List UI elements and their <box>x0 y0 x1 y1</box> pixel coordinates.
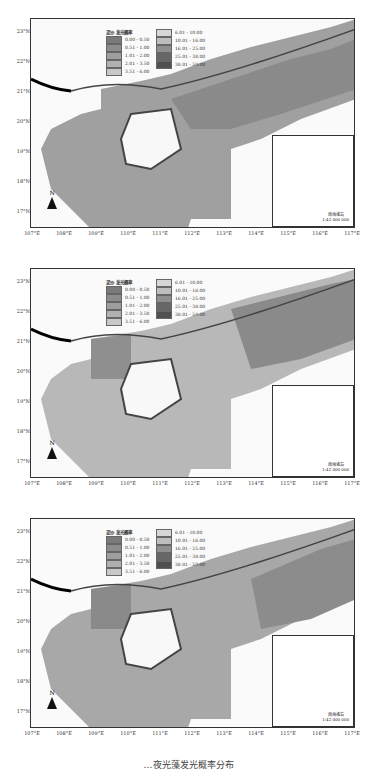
legend-item: 10.01 - 16.00 <box>156 287 205 294</box>
legend-swatch <box>106 68 122 76</box>
legend-swatch <box>156 45 172 53</box>
y-tick: 20°N <box>2 118 30 124</box>
legend-item: 1.01 - 2.00 <box>106 52 149 59</box>
x-tick: 110°E <box>116 480 140 486</box>
legend-swatch <box>106 544 122 552</box>
inset-scale: 1:42 000 000 <box>322 717 349 722</box>
x-tick: 111°E <box>148 480 172 486</box>
map-panel-b: 泥沙 发光概率 0.00 - 0.50 0.51 - 1.00 1.01 - 2… <box>0 268 377 508</box>
x-tick: 107°E <box>20 230 44 236</box>
legend-swatch <box>106 310 122 318</box>
inset-map: 南海诸岛 1:42 000 000 <box>272 635 354 727</box>
north-arrow-icon: N <box>45 689 59 709</box>
legend-item: 10.01 - 16.00 <box>156 37 205 44</box>
y-tick: 17°N <box>2 458 30 464</box>
legend-item: 3.51 - 6.00 <box>106 68 149 75</box>
x-tick: 113°E <box>212 480 236 486</box>
legend-swatch <box>156 29 172 37</box>
x-tick: 112°E <box>180 730 204 736</box>
y-tick: 19°N <box>2 398 30 404</box>
y-tick: 21°N <box>2 88 30 94</box>
y-tick: 22°N <box>2 58 30 64</box>
x-tick: 109°E <box>84 230 108 236</box>
x-tick: 108°E <box>52 730 76 736</box>
x-tick: 116°E <box>308 230 332 236</box>
y-tick: 17°N <box>2 208 30 214</box>
legend-item: 2.01 - 3.50 <box>106 60 149 67</box>
legend-swatch <box>156 561 172 569</box>
legend-item: 2.01 - 3.50 <box>106 560 149 567</box>
legend-item: 25.01 - 38.00 <box>156 553 205 560</box>
legend-item: 0.00 - 0.50 <box>106 536 149 543</box>
legend-swatch <box>106 318 122 326</box>
map-frame: 泥沙 发光概率 0.00 - 0.50 0.51 - 1.00 1.01 - 2… <box>30 18 355 228</box>
legend-swatch <box>106 302 122 310</box>
map-panel-a: 泥沙 发光概率 0.00 - 0.50 0.51 - 1.00 1.01 - 2… <box>0 18 377 258</box>
legend-item: 6.01 - 10.00 <box>156 529 202 536</box>
x-tick: 114°E <box>244 730 268 736</box>
legend-swatch <box>106 60 122 68</box>
x-tick: 116°E <box>308 730 332 736</box>
legend-title: 泥沙 发光概率 <box>106 279 132 285</box>
x-tick: 110°E <box>116 230 140 236</box>
legend-swatch <box>156 303 172 311</box>
map-frame: 泥沙 发光概率 0.00 - 0.50 0.51 - 1.00 1.01 - 2… <box>30 268 355 478</box>
legend-swatch <box>106 286 122 294</box>
inset-map: 南海诸岛 1:42 000 000 <box>272 135 354 227</box>
y-tick: 23°N <box>2 278 30 284</box>
x-tick: 116°E <box>308 480 332 486</box>
legend-title: 泥沙 发光概率 <box>106 529 132 535</box>
x-tick: 111°E <box>148 230 172 236</box>
inset-map: 南海诸岛 1:42 000 000 <box>272 385 354 477</box>
legend-swatch <box>106 52 122 60</box>
x-tick: 113°E <box>212 230 236 236</box>
y-tick: 21°N <box>2 338 30 344</box>
legend-swatch <box>106 552 122 560</box>
y-tick: 19°N <box>2 648 30 654</box>
legend-item: 0.51 - 1.00 <box>106 544 149 551</box>
legend-swatch <box>106 560 122 568</box>
map-frame: 泥沙 发光概率 0.00 - 0.50 0.51 - 1.00 1.01 - 2… <box>30 518 355 728</box>
legend-swatch <box>156 537 172 545</box>
legend-swatch <box>156 287 172 295</box>
legend-swatch <box>156 37 172 45</box>
x-tick: 111°E <box>148 730 172 736</box>
x-tick: 112°E <box>180 230 204 236</box>
legend-item: 6.01 - 10.00 <box>156 279 202 286</box>
x-tick: 115°E <box>276 480 300 486</box>
y-tick: 23°N <box>2 528 30 534</box>
legend-item: 1.01 - 2.00 <box>106 552 149 559</box>
legend-item: 3.51 - 6.00 <box>106 318 149 325</box>
y-tick: 20°N <box>2 618 30 624</box>
legend-title: 泥沙 发光概率 <box>106 29 132 35</box>
x-tick: 114°E <box>244 230 268 236</box>
x-tick: 107°E <box>20 730 44 736</box>
map-panel-c: 泥沙 发光概率 0.00 - 0.50 0.51 - 1.00 1.01 - 2… <box>0 518 377 758</box>
legend-swatch <box>156 545 172 553</box>
x-tick: 109°E <box>84 480 108 486</box>
legend-item: 2.01 - 3.50 <box>106 310 149 317</box>
y-tick: 22°N <box>2 558 30 564</box>
y-tick: 23°N <box>2 28 30 34</box>
figure-caption: …夜光藻发光概率分布 <box>0 758 377 771</box>
legend-item: 38.01 - 59.00 <box>156 561 205 568</box>
x-tick: 115°E <box>276 230 300 236</box>
y-tick: 20°N <box>2 368 30 374</box>
legend-swatch <box>106 294 122 302</box>
legend-swatch <box>156 311 172 319</box>
legend-item: 0.51 - 1.00 <box>106 44 149 51</box>
legend-item: 3.51 - 6.00 <box>106 568 149 575</box>
legend-item: 16.01 - 25.00 <box>156 295 205 302</box>
legend-swatch <box>156 61 172 69</box>
legend-item: 0.51 - 1.00 <box>106 294 149 301</box>
legend-item: 0.00 - 0.50 <box>106 36 149 43</box>
legend-swatch <box>156 295 172 303</box>
legend-item: 38.01 - 59.00 <box>156 61 205 68</box>
y-tick: 18°N <box>2 428 30 434</box>
x-tick: 110°E <box>116 730 140 736</box>
x-tick: 112°E <box>180 480 204 486</box>
inset-scale: 1:42 000 000 <box>322 467 349 472</box>
x-tick: 107°E <box>20 480 44 486</box>
x-tick: 115°E <box>276 730 300 736</box>
legend-item: 6.01 - 10.00 <box>156 29 202 36</box>
